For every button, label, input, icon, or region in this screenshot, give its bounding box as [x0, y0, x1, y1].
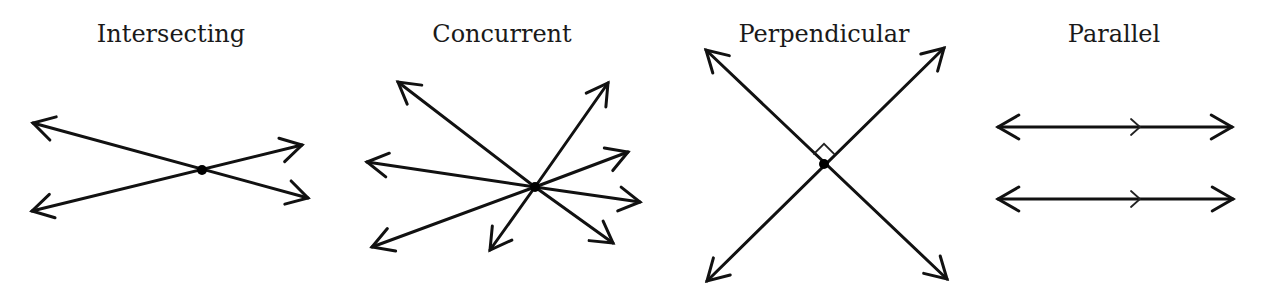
intersection-point-icon — [819, 159, 829, 169]
line — [33, 123, 308, 198]
line — [32, 145, 302, 211]
ray — [372, 187, 535, 247]
diagram-canvas — [0, 0, 1264, 296]
ray — [367, 162, 535, 187]
intersection-point-icon — [530, 182, 540, 192]
ray — [398, 82, 535, 187]
intersection-point-icon — [197, 165, 207, 175]
parallel-lines-figure — [998, 115, 1233, 211]
perpendicular-lines-figure — [706, 48, 947, 281]
ray — [535, 83, 608, 187]
intersecting-lines-figure — [32, 117, 308, 218]
concurrent-lines-figure — [367, 82, 640, 251]
right-angle-mark-icon — [814, 144, 834, 154]
